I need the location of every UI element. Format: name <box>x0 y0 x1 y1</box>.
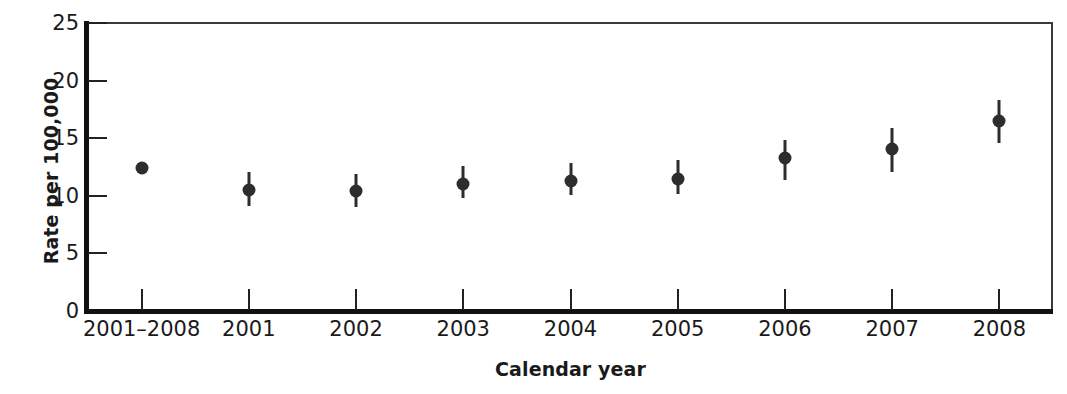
y-axis-line <box>84 21 89 312</box>
data-point-marker <box>886 142 899 155</box>
y-tick-label: 5 <box>66 241 79 265</box>
y-tick-label: 25 <box>52 11 79 35</box>
x-tick-mark <box>570 289 572 310</box>
x-tick-mark <box>248 289 250 310</box>
x-tick-label: 2002 <box>329 317 382 341</box>
y-tick-label: 10 <box>52 184 79 208</box>
data-point-marker <box>993 115 1006 128</box>
data-point-marker <box>671 172 684 185</box>
y-tick-mark <box>88 195 107 197</box>
y-tick-mark <box>88 80 107 82</box>
x-tick-label: 2001 <box>222 317 275 341</box>
y-tick-mark <box>88 22 107 24</box>
x-tick-mark <box>998 289 1000 310</box>
x-axis-title: Calendar year <box>88 358 1053 380</box>
data-point-marker <box>564 174 577 187</box>
data-point-marker <box>242 184 255 197</box>
y-tick-mark <box>88 252 107 254</box>
x-tick-mark <box>355 289 357 310</box>
x-tick-mark <box>891 289 893 310</box>
y-tick-mark <box>88 137 107 139</box>
plot-frame-top <box>88 22 1053 24</box>
plot-frame-right <box>1051 22 1053 310</box>
y-tick-label: 15 <box>52 126 79 150</box>
rate-per-100000-chart: Rate per 100,000 0510152025 2001–2008200… <box>0 0 1067 394</box>
x-tick-label: 2005 <box>651 317 704 341</box>
x-tick-mark <box>784 289 786 310</box>
x-tick-mark <box>141 289 143 310</box>
data-point-marker <box>350 185 363 198</box>
y-tick-label: 20 <box>52 69 79 93</box>
x-tick-label: 2008 <box>973 317 1026 341</box>
x-tick-label: 2007 <box>865 317 918 341</box>
data-point-marker <box>135 162 148 175</box>
x-axis-line <box>84 309 1053 314</box>
data-point-marker <box>457 178 470 191</box>
plot-area: 0510152025 2001–200820012002200320042005… <box>88 22 1053 310</box>
x-tick-label: 2004 <box>544 317 597 341</box>
x-tick-label: 2006 <box>758 317 811 341</box>
data-point-marker <box>778 151 791 164</box>
x-tick-mark <box>462 289 464 310</box>
x-tick-label: 2003 <box>437 317 490 341</box>
x-tick-label: 2001–2008 <box>83 317 200 341</box>
x-tick-mark <box>677 289 679 310</box>
y-tick-label: 0 <box>66 299 79 323</box>
